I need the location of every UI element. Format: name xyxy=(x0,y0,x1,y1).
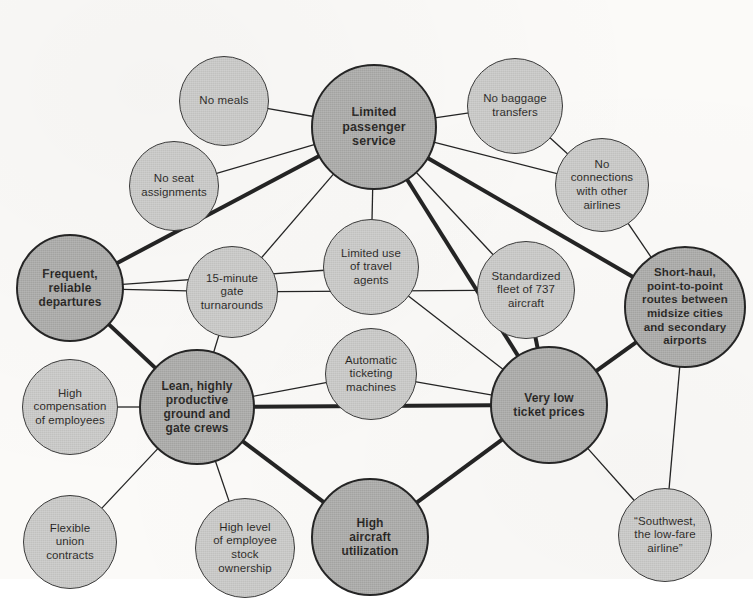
node-label: “Southwest,the low-fareairline” xyxy=(628,515,702,556)
node-label: 15-minutegateturnarounds xyxy=(195,272,269,313)
node-label: Highaircraftutilization xyxy=(335,516,404,558)
node-label: High levelof employeestockownership xyxy=(207,521,283,575)
node-label: Flexibleunioncontracts xyxy=(40,522,100,563)
node-high-aircraft-utilization[interactable]: Highaircraftutilization xyxy=(311,478,429,596)
node-flexible-union-contracts[interactable]: Flexibleunioncontracts xyxy=(23,495,117,589)
edge-no-seat-assignments-to-limited-passenger-service xyxy=(216,144,315,173)
node-label: Limitedpassengerservice xyxy=(336,105,411,149)
edge-high-aircraft-utilization-to-very-low-ticket-prices xyxy=(416,439,502,503)
edge-automatic-ticketing-machines-to-very-low-ticket-prices xyxy=(415,382,493,395)
node-label: Automaticticketingmachines xyxy=(339,354,403,395)
node-label: Noconnectionswith otherairlines xyxy=(565,158,639,212)
edge-short-haul-point-to-point-to-very-low-ticket-prices xyxy=(596,342,637,372)
node-fifteen-minute-gate-turnarounds[interactable]: 15-minutegateturnarounds xyxy=(186,246,278,338)
edge-limited-passenger-service-to-limited-use-travel-agents xyxy=(372,188,373,220)
node-label: Limited useof travelagents xyxy=(335,247,407,288)
edge-no-baggage-transfers-to-no-connections-other-airlines xyxy=(549,137,568,154)
edge-lean-productive-crews-to-flexible-union-contracts xyxy=(101,448,158,509)
node-label: Highcompensationof employees xyxy=(28,387,113,428)
node-label: Frequent,reliabledepartures xyxy=(32,267,107,309)
node-label: No baggagetransfers xyxy=(477,92,553,119)
node-standardized-fleet-737[interactable]: Standardizedfleet of 737aircraft xyxy=(477,241,575,339)
node-high-employee-stock-ownership[interactable]: High levelof employeestockownership xyxy=(195,498,295,598)
edge-frequent-reliable-departures-to-fifteen-minute-gate-turnarounds xyxy=(122,289,187,291)
node-label: Standardizedfleet of 737aircraft xyxy=(486,270,567,311)
edge-automatic-ticketing-machines-to-lean-productive-crews xyxy=(253,382,328,396)
edge-short-haul-point-to-point-to-southwest-low-fare-airline xyxy=(669,366,680,489)
node-frequent-reliable-departures[interactable]: Frequent,reliabledepartures xyxy=(16,234,124,342)
edge-no-connections-other-airlines-to-short-haul-point-to-point xyxy=(628,223,652,258)
node-very-low-ticket-prices[interactable]: Very lowticket prices xyxy=(490,346,608,464)
edge-no-baggage-transfers-to-limited-passenger-service xyxy=(435,113,469,118)
node-automatic-ticketing-machines[interactable]: Automaticticketingmachines xyxy=(325,328,417,420)
node-label: No seatassignments xyxy=(135,172,213,199)
edge-frequent-reliable-departures-to-lean-productive-crews xyxy=(108,324,155,368)
node-lean-productive-crews[interactable]: Lean, highlyproductiveground andgate cre… xyxy=(139,349,255,465)
node-limited-use-travel-agents[interactable]: Limited useof travelagents xyxy=(323,219,419,315)
node-southwest-low-fare-airline[interactable]: “Southwest,the low-fareairline” xyxy=(618,488,712,582)
node-limited-passenger-service[interactable]: Limitedpassengerservice xyxy=(311,64,437,190)
node-label: No meals xyxy=(193,94,254,108)
edge-very-low-ticket-prices-to-southwest-low-fare-airline xyxy=(587,448,634,501)
node-label: Lean, highlyproductiveground andgate cre… xyxy=(155,379,238,436)
node-no-baggage-transfers[interactable]: No baggagetransfers xyxy=(467,58,563,154)
node-no-meals[interactable]: No meals xyxy=(179,56,269,146)
node-high-compensation-employees[interactable]: Highcompensationof employees xyxy=(22,359,118,455)
edge-no-meals-to-limited-passenger-service xyxy=(267,108,314,116)
node-short-haul-point-to-point[interactable]: Short-haul,point-to-pointroutes betweenm… xyxy=(624,246,746,368)
node-label: Short-haul,point-to-pointroutes betweenm… xyxy=(636,266,734,347)
edge-fifteen-minute-gate-turnarounds-to-lean-productive-crews xyxy=(213,335,219,353)
node-no-connections-other-airlines[interactable]: Noconnectionswith otherairlines xyxy=(555,138,649,232)
edge-lean-productive-crews-to-high-employee-stock-ownership xyxy=(215,460,229,502)
edge-lean-productive-crews-to-high-aircraft-utilization xyxy=(242,441,324,503)
node-no-seat-assignments[interactable]: No seatassignments xyxy=(129,141,219,231)
node-label: Very lowticket prices xyxy=(507,391,590,419)
edge-limited-passenger-service-to-fifteen-minute-gate-turnarounds xyxy=(261,174,334,259)
